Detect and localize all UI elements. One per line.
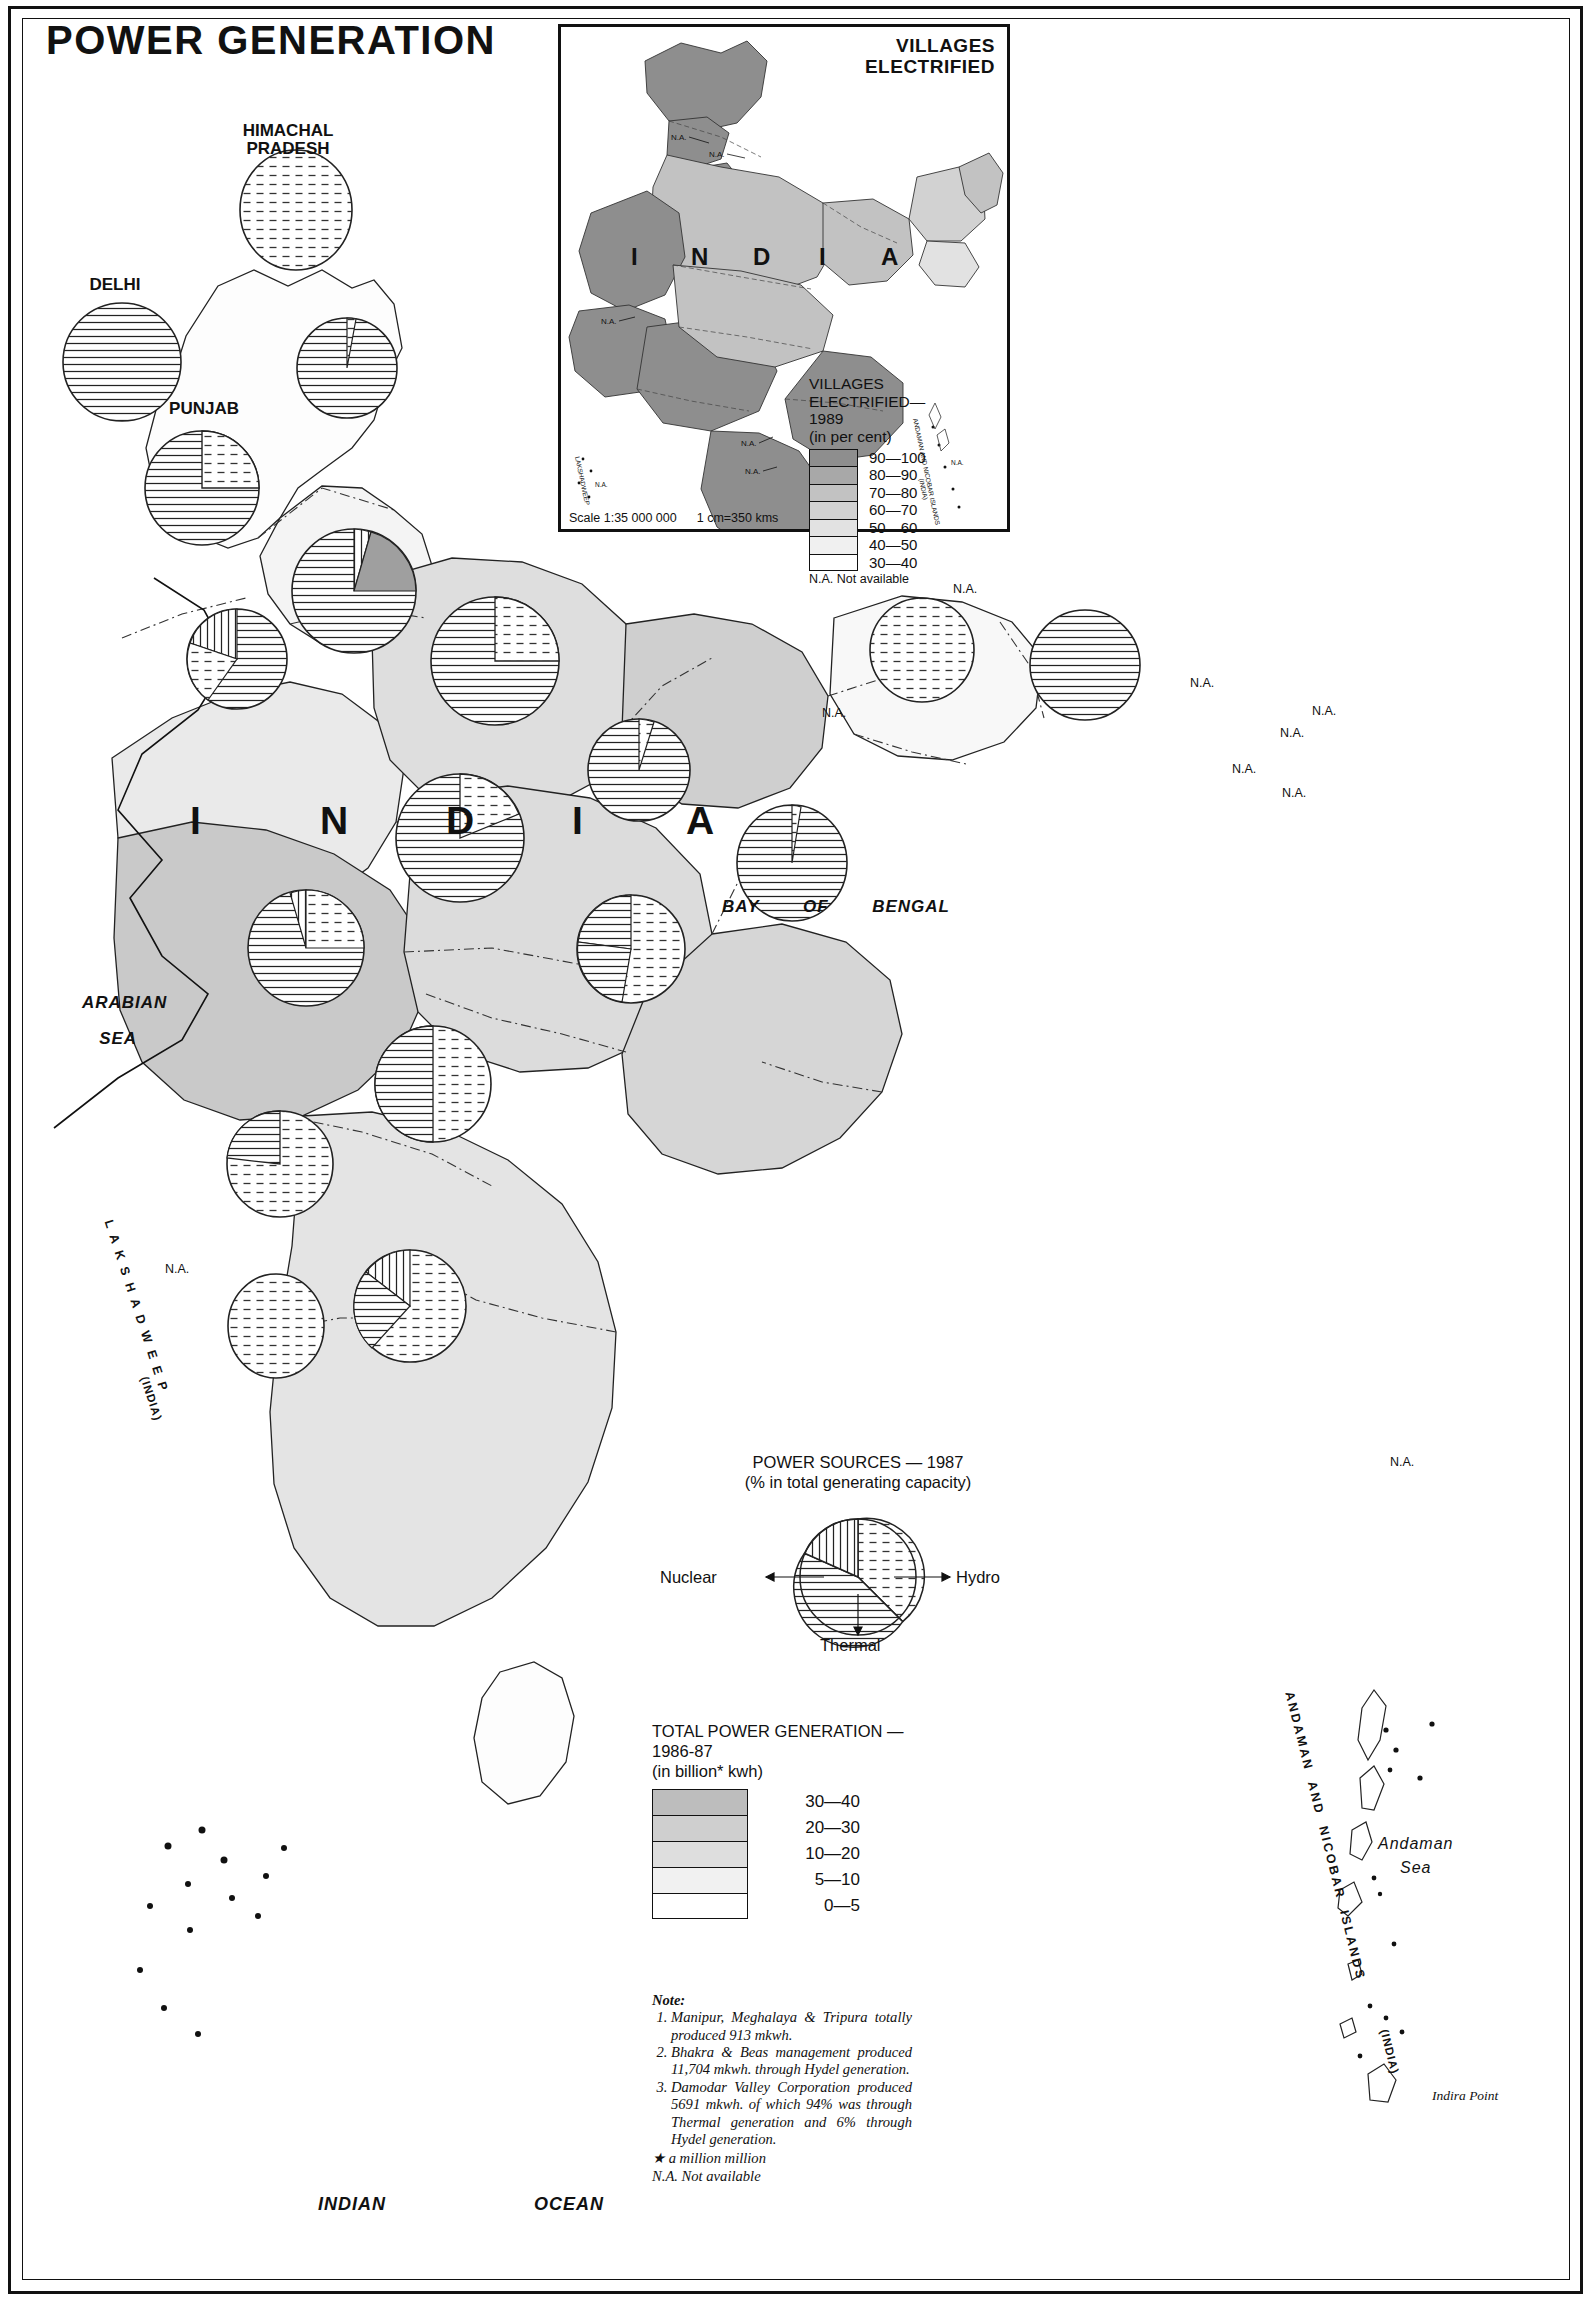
legend-row: 40—50: [809, 536, 989, 554]
pie-gujarat: [187, 609, 287, 709]
svg-text:N.A.: N.A.: [595, 481, 608, 488]
svg-text:N: N: [691, 243, 708, 270]
pie-maharashtra: [248, 890, 364, 1006]
state-label-delhi: DELHI: [70, 276, 160, 294]
note-star: ★ a million million: [652, 2150, 912, 2167]
total-power-title: TOTAL POWER GENERATION — 1986-87 (in bil…: [652, 1722, 982, 1781]
pie-punjab: [145, 431, 259, 545]
power-sources-label-hydro: Hydro: [956, 1568, 1000, 1587]
legend-row: 30—40: [652, 1789, 982, 1815]
pie-rajasthan: [292, 529, 416, 653]
na-marker: N.A.: [1282, 786, 1306, 800]
villages-electrified-inset: VILLAGES ELECTRIFIED: [558, 24, 1010, 532]
legend-row: 10—20: [652, 1841, 982, 1867]
legend-row: 90—100: [809, 449, 989, 467]
svg-text:D: D: [753, 243, 770, 270]
state-label-himachal-pradesh: HIMACHALPRADESH: [220, 122, 356, 158]
na-marker: N.A.: [1280, 726, 1304, 740]
legend-swatch: [809, 536, 858, 554]
inset-legend-line2: ELECTRIFIED—: [809, 393, 925, 410]
notes-heading: Note:: [652, 1992, 912, 2009]
inset-legend-heading: VILLAGES ELECTRIFIED— 1989 (in per cent): [809, 375, 989, 446]
pie-northeast: [1030, 610, 1140, 720]
pie-andhra-pradesh: [375, 1026, 491, 1142]
pie-tamil-nadu: [354, 1250, 466, 1362]
pie-himachal-pradesh: [240, 150, 352, 270]
legend-label: 80—90: [869, 466, 917, 483]
svg-text:I: I: [819, 243, 826, 270]
pie-assam: [870, 598, 974, 702]
total-power-swatches: 30—40 20—30 10—20 5—10 0—5: [652, 1789, 982, 1919]
legend-swatch: [652, 1789, 748, 1815]
map-notes: Note: Manipur, Meghalaya & Tripura total…: [652, 1992, 912, 2185]
legend-label: 5—10: [774, 1870, 860, 1890]
power-sources-title-line1: POWER SOURCES — 1987: [753, 1453, 964, 1471]
svg-text:N.A.: N.A.: [671, 133, 687, 142]
inset-na-note: N.A. Not available: [809, 572, 989, 586]
power-sources-title-line2: (% in total generating capacity): [745, 1473, 972, 1491]
legend-label: 20—30: [774, 1818, 860, 1838]
power-sources-title: POWER SOURCES — 1987 (% in total generat…: [648, 1452, 1068, 1492]
legend-row: 30—40: [809, 554, 989, 572]
svg-text:I: I: [572, 799, 583, 842]
total-power-title-line2: 1986-87: [652, 1742, 713, 1760]
legend-label: 10—20: [774, 1844, 860, 1864]
legend-swatch: [809, 466, 858, 484]
svg-text:N.A.: N.A.: [745, 467, 761, 476]
pie-haryana: [297, 318, 397, 418]
legend-swatch: [652, 1815, 748, 1841]
legend-label: 90—100: [869, 449, 926, 466]
power-sources-label-thermal: Thermal: [820, 1636, 881, 1655]
na-marker-andaman: N.A.: [1390, 1455, 1414, 1469]
pie-bihar: [588, 719, 690, 821]
power-generation-map-page: POWER GENERATION: [0, 0, 1593, 2312]
svg-text:N.A.: N.A.: [709, 150, 725, 159]
indira-point-label: Indira Point: [1432, 2088, 1498, 2104]
legend-swatch: [809, 501, 858, 519]
legend-label: 0—5: [774, 1896, 860, 1916]
legend-label: 30—40: [869, 554, 917, 571]
sea-label-indian: INDIAN: [318, 2194, 386, 2215]
total-power-title-line3: (in billion* kwh): [652, 1762, 763, 1780]
na-marker: N.A.: [822, 706, 846, 720]
svg-text:N.A.: N.A.: [601, 317, 617, 326]
svg-text:I: I: [190, 799, 201, 842]
inset-legend-line4: (in per cent): [809, 428, 892, 445]
legend-swatch: [652, 1867, 748, 1893]
svg-text:D: D: [446, 799, 474, 842]
legend-label: 70—80: [869, 484, 917, 501]
inset-legend-line1: VILLAGES: [809, 375, 884, 392]
legend-label: 40—50: [869, 536, 917, 553]
legend-swatch: [809, 484, 858, 502]
na-marker: N.A.: [1312, 704, 1336, 718]
note-item: Bhakra & Beas management produced 11,704…: [671, 2044, 912, 2079]
legend-swatch: [809, 519, 858, 537]
sea-label-bay-of-bengal: BAY OF BENGAL: [722, 897, 950, 917]
svg-text:LAKSHADWEEP: LAKSHADWEEP: [574, 456, 591, 506]
legend-row: 60—70: [809, 501, 989, 519]
svg-text:N.A.: N.A.: [741, 439, 757, 448]
sea-label-arabian-sea: ARABIAN SEA: [82, 985, 167, 1056]
power-sources-label-nuclear: Nuclear: [660, 1568, 717, 1587]
legend-row: 80—90: [809, 466, 989, 484]
na-marker: N.A.: [1190, 676, 1214, 690]
svg-text:I: I: [631, 243, 638, 270]
legend-label: 30—40: [774, 1792, 860, 1812]
svg-text:A: A: [881, 243, 898, 270]
na-marker-lakshadweep: N.A.: [165, 1262, 189, 1276]
legend-swatch: [809, 554, 858, 572]
note-item: Damodar Valley Corporation produced 5691…: [671, 2079, 912, 2148]
power-sources-legend: POWER SOURCES — 1987 (% in total generat…: [648, 1452, 1068, 1652]
total-power-generation-legend: TOTAL POWER GENERATION — 1986-87 (in bil…: [652, 1722, 982, 1919]
sea-label-andaman-sea: AndamanSea: [1378, 1832, 1454, 1880]
inset-scale-bar: Scale 1:35 000 0001 cm=350 kms: [569, 511, 798, 525]
state-label-punjab: PUNJAB: [152, 400, 256, 418]
pie-uttar-pradesh: [431, 597, 559, 725]
note-item: Manipur, Meghalaya & Tripura totally pro…: [671, 2009, 912, 2044]
legend-row: 20—30: [652, 1815, 982, 1841]
legend-row: 50—60: [809, 519, 989, 537]
legend-swatch: [809, 449, 858, 467]
notes-list: Manipur, Meghalaya & Tripura totally pro…: [652, 2009, 912, 2148]
note-na: N.A. Not available: [652, 2168, 912, 2185]
scale-ratio: Scale 1:35 000 000: [569, 511, 677, 525]
